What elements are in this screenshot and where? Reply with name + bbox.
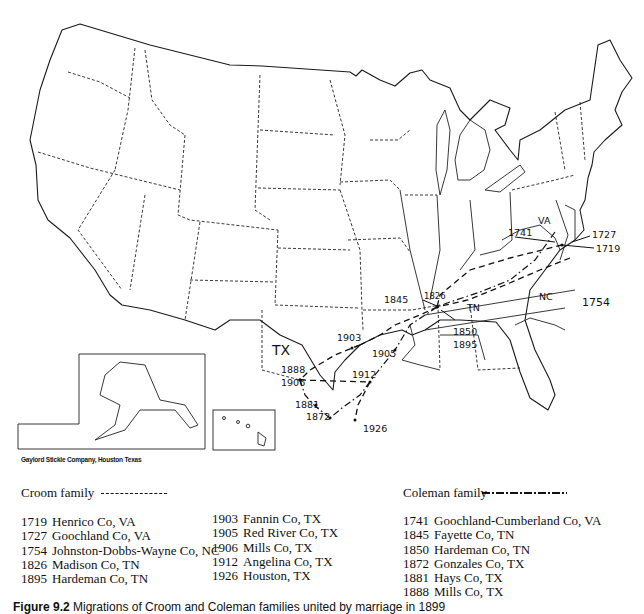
croom-list-col2: 1903Fannin Co, TX 1905Red River Co, TX 1… [212,512,338,583]
label-1826: 1826 [424,291,446,301]
figure-caption: Figure 9.2 Migrations of Croom and Colem… [13,600,445,614]
leader-lines [423,236,594,320]
label-1888: 1888 [281,364,305,375]
label-1850: 1850 [453,326,477,337]
list-item: 1895Hardeman Co, TN [21,572,220,586]
coleman-legend-title: Coleman family [403,485,487,501]
label-1741: 1741 [508,227,532,238]
label-1906: 1906 [281,377,305,388]
figure-caption-text: Migrations of Croom and Coleman families… [73,600,445,614]
lake-michigan [436,110,450,195]
list-item: 1912Angelina Co, TX [212,555,338,569]
list-item: 1741Goochland-Cumberland Co, VA [403,514,601,528]
label-tx: TX [271,342,291,358]
list-item: 1926Houston, TX [212,569,338,583]
label-1905: 1905 [372,348,396,359]
list-item: 1881Hays Co, TX [403,571,601,585]
label-1881: 1881 [295,399,319,410]
list-item: 1905Red River Co, TX [212,526,338,540]
list-item: 1719Henrico Co, VA [21,515,220,529]
label-nc: NC [539,291,553,302]
alaska-inset [18,354,205,449]
coleman-list: 1741Goochland-Cumberland Co, VA 1845Faye… [403,514,601,600]
croom-list-col1: 1719Henrico Co, VA 1727Goochland Co, VA … [21,515,220,586]
label-1754: 1754 [582,296,610,309]
list-item: 1850Hardeman Co, TN [403,543,601,557]
list-item: 1906Mills Co, TX [212,541,338,555]
label-1903: 1903 [337,332,361,343]
list-item: 1845Fayette Co, TN [403,528,601,542]
label-1845: 1845 [384,294,408,305]
label-1912: 1912 [352,369,376,380]
croom-line-swatch [101,493,167,494]
coleman-route [300,232,555,418]
list-item: 1903Fannin Co, TX [212,512,338,526]
label-1926: 1926 [363,423,387,434]
label-1872: 1872 [306,411,330,422]
croom-legend-title: Croom family [21,485,94,501]
label-tn: TN [466,302,480,313]
label-1727: 1727 [592,229,616,240]
list-item: 1727Goochland Co, VA [21,529,220,543]
label-1895: 1895 [453,339,477,350]
hawaii-inset [213,410,275,450]
figure-label: Figure 9.2 [13,600,70,614]
us-migration-map: 1727 1719 1741 VA 1754 NC TN 1826 1845 1… [0,0,644,460]
list-item: 1754Johnston-Dobbs-Wayne Co, NC [21,544,220,558]
list-item: 1826Madison Co, TN [21,558,220,572]
map-credit: Gaylord Stickle Company, Houston Texas [21,456,141,463]
label-1719: 1719 [596,243,620,254]
label-va: VA [538,215,551,226]
list-item: 1888Mills Co, TX [403,585,601,599]
coleman-line-swatch [482,492,567,494]
list-item: 1872Gonzales Co, TX [403,557,601,571]
lower-michigan [455,120,490,180]
